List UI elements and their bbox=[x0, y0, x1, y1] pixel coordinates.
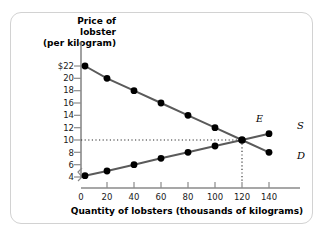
x-axis-ticks bbox=[107, 182, 269, 188]
supply-demand-chart: Price of lobster (per kilogram) Quantity… bbox=[0, 0, 325, 239]
y-axis-ticks bbox=[74, 66, 81, 177]
chart-canvas bbox=[0, 0, 325, 239]
equilibrium-marker bbox=[238, 136, 246, 144]
